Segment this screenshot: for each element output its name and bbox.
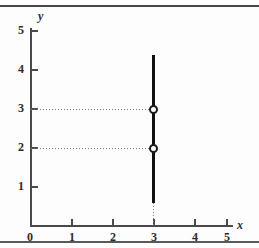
x-axis-line	[30, 225, 233, 227]
x-axis-label: x	[237, 219, 243, 231]
y-axis-label: y	[38, 10, 43, 22]
y-tick-label: 5	[6, 24, 24, 36]
vertical-segment-at-x-3	[152, 55, 155, 203]
vertical-guide-x-3	[153, 203, 154, 225]
horizontal-guide-y-2	[31, 148, 153, 149]
figure-container: y x 5 4 3 2 1 0 1 2 3 4 5	[0, 0, 259, 248]
x-tick-label: 5	[218, 231, 236, 243]
x-tick-label: 2	[104, 231, 122, 243]
y-axis-line	[30, 28, 32, 227]
y-tick-mark	[32, 186, 38, 188]
y-tick-label: 3	[6, 102, 24, 114]
x-tick-mark	[71, 219, 73, 225]
x-tick-mark	[194, 219, 196, 225]
open-circle-at-3-2	[149, 144, 158, 153]
plot-area: y x 5 4 3 2 1 0 1 2 3 4 5	[0, 0, 259, 248]
horizontal-guide-y-3	[31, 109, 153, 110]
y-tick-label: 2	[6, 141, 24, 153]
x-tick-mark	[226, 219, 228, 225]
x-tick-label: 1	[63, 231, 81, 243]
y-tick-label: 4	[6, 63, 24, 75]
y-tick-label: 1	[6, 180, 24, 192]
x-tick-label: 0	[21, 231, 39, 243]
open-circle-at-3-3	[149, 105, 158, 114]
x-tick-label: 4	[186, 231, 204, 243]
y-tick-mark	[32, 69, 38, 71]
y-tick-mark	[32, 30, 38, 32]
x-tick-label: 3	[145, 231, 163, 243]
x-tick-mark	[112, 219, 114, 225]
